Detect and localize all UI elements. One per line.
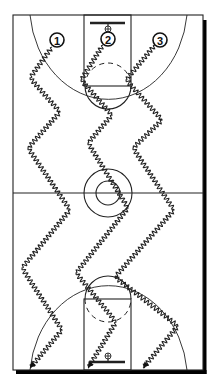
court-shadow-bottom — [16, 370, 207, 374]
player-1-marker: 1 — [50, 33, 64, 47]
basketball-court-diagram: 123 — [0, 0, 215, 389]
free-throw-circle-bottom-inner — [85, 299, 131, 322]
rim-top — [105, 26, 111, 32]
player-3-marker: 3 — [153, 33, 167, 47]
players: 123 — [50, 32, 167, 47]
three-point-arc-bottom — [30, 286, 187, 370]
player-label: 1 — [54, 35, 60, 47]
player-2-marker: 2 — [101, 32, 115, 46]
player-label: 3 — [157, 35, 163, 47]
dribble-paths — [22, 45, 178, 368]
player-label: 2 — [105, 34, 111, 46]
rim-bottom — [105, 353, 111, 359]
three-point-arc-top — [30, 15, 187, 99]
dribble-path-player-1 — [22, 47, 70, 368]
